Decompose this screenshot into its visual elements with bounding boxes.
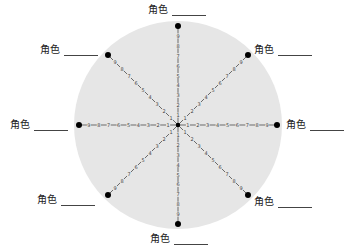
tick-label: 5 bbox=[141, 157, 144, 163]
tick-label: 8 bbox=[232, 178, 235, 184]
tick-label: 8 bbox=[256, 122, 259, 128]
tick-label: 3 bbox=[147, 122, 150, 128]
tick-label: 2 bbox=[162, 108, 165, 114]
tick-label: 5 bbox=[211, 157, 214, 163]
tick-label: 5 bbox=[141, 87, 144, 93]
tick-label: 7 bbox=[176, 53, 179, 59]
role-blank-line[interactable] bbox=[172, 7, 206, 16]
tick-label: 4 bbox=[176, 82, 179, 88]
tick-label: 3 bbox=[197, 143, 200, 149]
tick-label: 2 bbox=[190, 108, 193, 114]
spoke-end-dot bbox=[175, 23, 181, 29]
tick-label: 3 bbox=[155, 143, 158, 149]
tick-label: 1 bbox=[169, 115, 172, 121]
tick-label: 4 bbox=[148, 94, 151, 100]
role-text: 角色 bbox=[10, 119, 30, 131]
tick-label: 8 bbox=[120, 178, 123, 184]
tick-label: 5 bbox=[127, 122, 130, 128]
tick-label: 1 bbox=[176, 112, 179, 118]
role-text: 角色 bbox=[40, 44, 60, 56]
tick-label: 6 bbox=[236, 122, 239, 128]
tick-label: 4 bbox=[176, 162, 179, 168]
role-text: 角色 bbox=[254, 44, 274, 56]
tick-label: 3 bbox=[206, 122, 209, 128]
tick-label: 7 bbox=[127, 73, 130, 79]
tick-label: 7 bbox=[246, 122, 249, 128]
role-blank-line[interactable] bbox=[61, 197, 95, 206]
role-text: 角色 bbox=[254, 196, 274, 208]
role-blank-line[interactable] bbox=[64, 47, 98, 56]
role-blank-line[interactable] bbox=[174, 236, 208, 245]
tick-label: 8 bbox=[176, 43, 179, 49]
tick-label: 9 bbox=[87, 122, 90, 128]
role-blank-line[interactable] bbox=[278, 47, 312, 56]
tick-label: 1 bbox=[167, 122, 170, 128]
role-label-top: 角色 bbox=[148, 4, 206, 16]
tick-label: 5 bbox=[226, 122, 229, 128]
role-text: 角色 bbox=[150, 233, 170, 245]
tick-label: 4 bbox=[137, 122, 140, 128]
tick-label: 1 bbox=[169, 129, 172, 135]
center-hub bbox=[176, 123, 180, 127]
tick-label: 8 bbox=[176, 201, 179, 207]
tick-label: 9 bbox=[113, 185, 116, 191]
tick-label: 3 bbox=[176, 92, 179, 98]
role-label-bottom-right: 角色 bbox=[254, 196, 312, 208]
tick-label: 9 bbox=[176, 33, 179, 39]
spoke-end-dot bbox=[76, 122, 82, 128]
tick-label: 4 bbox=[204, 94, 207, 100]
tick-label: 6 bbox=[218, 164, 221, 170]
tick-label: 7 bbox=[225, 171, 228, 177]
tick-label: 7 bbox=[225, 73, 228, 79]
tick-label: 6 bbox=[134, 164, 137, 170]
tick-label: 9 bbox=[176, 211, 179, 217]
tick-label: 7 bbox=[107, 122, 110, 128]
tick-label: 5 bbox=[211, 87, 214, 93]
role-text: 角色 bbox=[148, 4, 168, 16]
tick-label: 6 bbox=[176, 63, 179, 69]
spoke-end-dot bbox=[274, 122, 280, 128]
tick-label: 1 bbox=[186, 122, 189, 128]
tick-label: 2 bbox=[176, 142, 179, 148]
tick-label: 4 bbox=[204, 150, 207, 156]
tick-label: 9 bbox=[266, 122, 269, 128]
role-label-top-right: 角色 bbox=[254, 44, 312, 56]
tick-label: 8 bbox=[232, 66, 235, 72]
tick-label: 2 bbox=[176, 102, 179, 108]
tick-label: 8 bbox=[120, 66, 123, 72]
tick-label: 4 bbox=[216, 122, 219, 128]
spoke-end-dot bbox=[105, 192, 111, 198]
role-label-left: 角色 bbox=[10, 119, 68, 131]
tick-label: 7 bbox=[176, 191, 179, 197]
tick-label: 5 bbox=[176, 73, 179, 79]
role-text: 角色 bbox=[37, 194, 57, 206]
role-blank-line[interactable] bbox=[34, 122, 68, 131]
role-label-bottom-left: 角色 bbox=[37, 194, 95, 206]
tick-label: 9 bbox=[239, 59, 242, 65]
tick-label: 6 bbox=[176, 181, 179, 187]
tick-label: 2 bbox=[162, 136, 165, 142]
tick-label: 1 bbox=[176, 132, 179, 138]
role-text: 角色 bbox=[286, 119, 306, 131]
tick-label: 5 bbox=[176, 172, 179, 178]
spoke-end-dot bbox=[245, 52, 251, 58]
role-blank-line[interactable] bbox=[310, 122, 344, 131]
tick-label: 8 bbox=[97, 122, 100, 128]
tick-label: 9 bbox=[239, 185, 242, 191]
tick-label: 1 bbox=[183, 115, 186, 121]
tick-label: 6 bbox=[218, 80, 221, 86]
tick-label: 2 bbox=[157, 122, 160, 128]
role-label-right: 角色 bbox=[286, 119, 344, 131]
tick-label: 2 bbox=[196, 122, 199, 128]
tick-label: 6 bbox=[117, 122, 120, 128]
role-blank-line[interactable] bbox=[278, 199, 312, 208]
tick-label: 6 bbox=[134, 80, 137, 86]
tick-label: 1 bbox=[183, 129, 186, 135]
role-label-top-left: 角色 bbox=[40, 44, 98, 56]
role-label-bottom: 角色 bbox=[150, 233, 208, 245]
tick-label: 3 bbox=[197, 101, 200, 107]
spoke-end-dot bbox=[245, 192, 251, 198]
tick-label: 3 bbox=[155, 101, 158, 107]
tick-label: 3 bbox=[176, 152, 179, 158]
spoke-end-dot bbox=[175, 221, 181, 227]
